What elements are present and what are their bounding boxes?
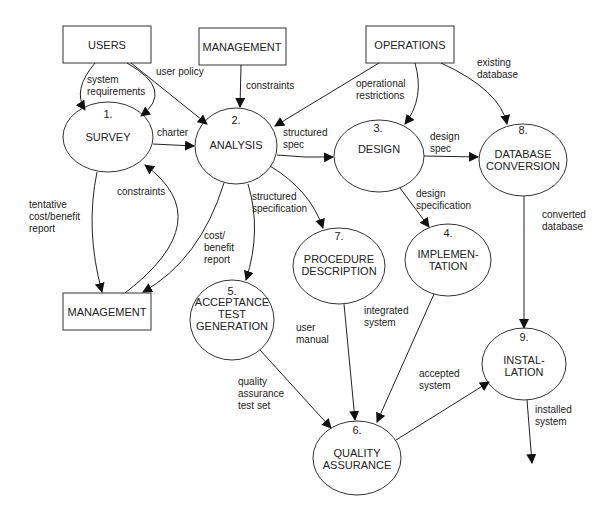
svg-text:user policy: user policy: [156, 66, 204, 77]
svg-text:system: system: [364, 317, 396, 328]
svg-text:accepted: accepted: [419, 368, 460, 379]
svg-text:TEST: TEST: [218, 308, 246, 320]
svg-text:converted: converted: [542, 209, 586, 220]
svg-text:MANAGEMENT: MANAGEMENT: [203, 41, 282, 53]
svg-text:2.: 2.: [231, 114, 240, 126]
svg-text:SURVEY: SURVEY: [85, 131, 131, 143]
process-database-conversion: 8. DATABASE CONVERSION: [479, 124, 567, 196]
svg-text:charter: charter: [157, 127, 189, 138]
svg-text:GENERATION: GENERATION: [196, 320, 268, 332]
svg-text:operational: operational: [356, 78, 405, 89]
svg-text:ASSURANCE: ASSURANCE: [323, 459, 391, 471]
flow-tentative-report: tentative cost/benefit report: [29, 172, 102, 292]
svg-text:constraints: constraints: [246, 80, 294, 91]
flow-cost-benefit-report: cost/ benefit report: [143, 183, 234, 292]
svg-text:constraints: constraints: [117, 186, 165, 197]
svg-text:QUALITY: QUALITY: [333, 447, 381, 459]
svg-text:requirements: requirements: [87, 86, 145, 97]
process-procedure-description: 7. PROCEDURE DESCRIPTION: [293, 228, 385, 304]
svg-text:4.: 4.: [443, 227, 452, 239]
svg-text:existing: existing: [477, 57, 511, 68]
entity-management-top: MANAGEMENT: [199, 28, 286, 65]
svg-text:OPERATIONS: OPERATIONS: [374, 39, 445, 51]
svg-text:spec: spec: [430, 143, 451, 154]
flow-converted-database: converted database: [524, 196, 586, 328]
flow-qa-test-set: quality assurance test set: [238, 350, 331, 428]
svg-text:user: user: [296, 322, 316, 333]
svg-text:ANALYSIS: ANALYSIS: [210, 139, 263, 151]
svg-text:ACCEPTANCE: ACCEPTANCE: [195, 296, 269, 308]
svg-text:CONVERSION: CONVERSION: [486, 160, 560, 172]
svg-text:benefit: benefit: [204, 242, 234, 253]
svg-text:report: report: [29, 223, 55, 234]
svg-text:8.: 8.: [518, 124, 527, 136]
entity-operations: OPERATIONS: [366, 26, 454, 63]
flow-user-manual: user manual: [296, 304, 355, 420]
svg-text:system: system: [535, 416, 567, 427]
flow-structured-spec: structured spec: [277, 127, 333, 157]
flow-design-specification: design specification: [400, 188, 471, 227]
flow-charter: charter: [153, 127, 194, 146]
svg-text:INSTAL-: INSTAL-: [503, 354, 545, 366]
svg-text:9.: 9.: [519, 331, 528, 343]
flow-existing-database: existing database: [441, 57, 519, 124]
flow-accepted-system: accepted system: [396, 368, 489, 440]
svg-text:TATION: TATION: [429, 260, 468, 272]
svg-text:7.: 7.: [334, 230, 343, 242]
svg-text:design: design: [430, 131, 459, 142]
entity-management-bottom: MANAGEMENT: [63, 293, 151, 330]
svg-text:6.: 6.: [352, 424, 361, 436]
svg-text:structured: structured: [252, 191, 296, 202]
svg-text:test set: test set: [238, 400, 270, 411]
svg-text:quality: quality: [238, 376, 267, 387]
svg-text:specification: specification: [252, 203, 307, 214]
svg-text:DATABASE: DATABASE: [494, 148, 551, 160]
svg-text:specification: specification: [416, 200, 471, 211]
process-survey: 1. SURVEY: [63, 102, 153, 172]
svg-text:cost/benefit: cost/benefit: [29, 211, 80, 222]
svg-text:cost/: cost/: [204, 230, 225, 241]
svg-text:DESCRIPTION: DESCRIPTION: [301, 265, 376, 277]
svg-text:system: system: [87, 74, 119, 85]
flow-constraints-management: constraints: [240, 65, 294, 107]
svg-text:installed: installed: [535, 404, 572, 415]
process-quality-assurance: 6. QUALITY ASSURANCE: [313, 421, 401, 495]
svg-text:DESIGN: DESIGN: [358, 143, 400, 155]
svg-text:structured: structured: [283, 127, 327, 138]
svg-text:IMPLEMEN-: IMPLEMEN-: [417, 248, 478, 260]
svg-text:database: database: [542, 221, 584, 232]
flow-installed-system: installed system: [527, 400, 572, 463]
data-flow-diagram: USERS MANAGEMENT OPERATIONS MANAGEMENT 1…: [0, 0, 614, 523]
svg-text:spec: spec: [283, 139, 304, 150]
svg-text:system: system: [419, 380, 451, 391]
svg-text:database: database: [477, 69, 519, 80]
flow-design-spec: design spec: [424, 131, 478, 157]
svg-text:restrictions: restrictions: [356, 90, 404, 101]
svg-text:assurance: assurance: [238, 388, 285, 399]
process-installation: 9. INSTAL- LATION: [482, 328, 566, 400]
svg-text:tentative: tentative: [29, 199, 67, 210]
svg-text:manual: manual: [296, 334, 329, 345]
process-analysis: 2. ANALYSIS: [195, 108, 277, 184]
process-design: 3. DESIGN: [334, 120, 424, 192]
svg-text:1.: 1.: [103, 108, 112, 120]
flow-operational-restrictions: operational restrictions: [275, 63, 418, 126]
entity-users: USERS: [63, 26, 151, 63]
svg-text:USERS: USERS: [88, 39, 126, 51]
svg-text:PROCEDURE: PROCEDURE: [304, 253, 374, 265]
svg-text:design: design: [416, 188, 445, 199]
svg-text:report: report: [204, 254, 230, 265]
svg-text:LATION: LATION: [505, 366, 544, 378]
flow-integrated-system: integrated system: [364, 294, 434, 422]
process-acceptance-test-generation: 5. ACCEPTANCE TEST GENERATION: [190, 280, 274, 360]
svg-text:3.: 3.: [373, 122, 382, 134]
svg-text:integrated: integrated: [364, 305, 408, 316]
svg-text:MANAGEMENT: MANAGEMENT: [68, 306, 147, 318]
process-implementation: 4. IMPLEMEN- TATION: [405, 224, 491, 296]
